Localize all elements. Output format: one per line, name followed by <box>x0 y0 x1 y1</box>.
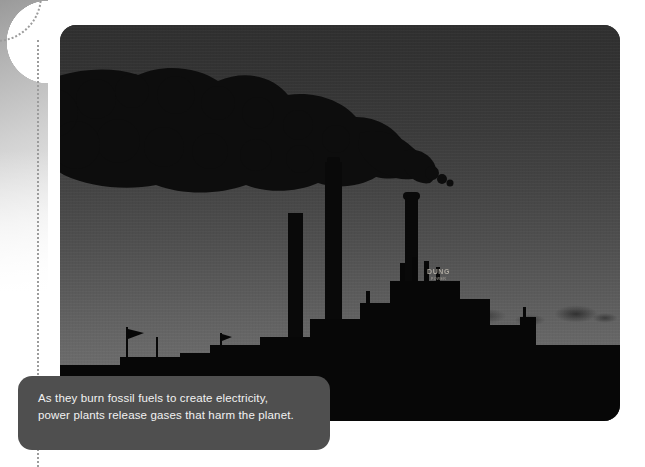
caption-line-1: As they burn fossil fuels to create elec… <box>38 390 312 407</box>
smokestack-right-cap <box>403 192 420 200</box>
caption-line-2: power plants release gases that harm the… <box>38 407 312 424</box>
smokestack-center-cap <box>327 157 340 164</box>
building-sign: DUNG POWER <box>427 268 450 281</box>
gradient-fade-overlay <box>0 150 48 350</box>
power-plant-photo: DUNG POWER <box>60 25 620 421</box>
building-sign-line2: POWER <box>427 277 450 281</box>
building-sign-line1: DUNG <box>427 268 450 275</box>
photo-caption-box: As they burn fossil fuels to create elec… <box>18 376 330 450</box>
page-root: DUNG POWER As they burn fossil fuels to … <box>0 0 645 467</box>
